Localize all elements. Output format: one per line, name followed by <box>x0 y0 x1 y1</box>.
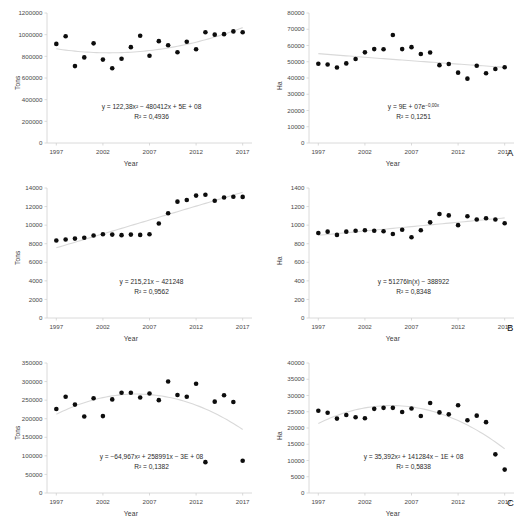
data-point <box>428 220 433 225</box>
data-point <box>119 233 124 238</box>
data-point <box>194 382 199 387</box>
data-point <box>474 413 479 418</box>
data-point <box>474 217 479 222</box>
data-point <box>502 467 507 472</box>
data-point <box>138 33 143 38</box>
data-point <box>110 232 115 237</box>
data-point <box>82 414 87 419</box>
r-squared-label: R² = 0,8348 <box>396 288 431 295</box>
equation-label: y = 122,38x² − 480412x + 5E + 08 <box>102 103 202 111</box>
r-squared-label: R² = 0,9562 <box>134 288 169 295</box>
data-point <box>344 61 349 66</box>
y-tick-label: 600 <box>294 258 305 265</box>
x-axis-title: Year <box>262 510 524 517</box>
x-tick-label: 1997 <box>49 148 63 155</box>
data-point <box>316 61 321 66</box>
data-point <box>184 395 189 400</box>
data-point <box>325 410 330 415</box>
data-point <box>363 416 368 421</box>
equation-label: y = 9E + 07e−0,00x <box>388 103 440 111</box>
x-tick-label: 1997 <box>311 323 325 330</box>
r-squared-label: R² = 0,4936 <box>134 113 169 120</box>
plot-area-b-right: 0200400600800100012001400199720022007201… <box>262 175 524 350</box>
chart-panel-c-left: 0500001000001500002000002500003000003500… <box>0 350 262 525</box>
panel-letter-a: A <box>507 147 513 158</box>
x-tick-label: 2017 <box>236 498 250 505</box>
data-point <box>175 50 180 55</box>
x-axis-title: Year <box>0 160 262 167</box>
y-tick-label: 60000 <box>287 42 305 49</box>
y-tick-label: 40000 <box>287 74 305 81</box>
data-point <box>203 192 208 197</box>
data-point <box>409 45 414 50</box>
data-point <box>353 57 358 62</box>
data-point <box>484 71 489 76</box>
x-tick-label: 2002 <box>358 148 372 155</box>
data-point <box>184 198 189 203</box>
data-point <box>157 221 162 226</box>
data-point <box>400 410 405 415</box>
y-tick-label: 200000 <box>22 118 43 125</box>
x-tick-label: 2007 <box>143 148 157 155</box>
plot-area-c-right: 0500010000150002000025000300003500040000… <box>262 350 524 525</box>
y-tick-label: 35000 <box>287 375 305 382</box>
data-point <box>231 400 236 405</box>
y-tick-label: 150000 <box>22 433 43 440</box>
plot-area-b-left: 0200040006000800010000120001400019972002… <box>0 175 262 350</box>
x-tick-label: 1997 <box>311 148 325 155</box>
data-point <box>54 42 59 47</box>
x-tick-label: 2002 <box>96 148 110 155</box>
y-tick-label: 4000 <box>29 277 43 284</box>
data-point <box>446 412 451 417</box>
y-tick-label: 2000 <box>29 296 43 303</box>
data-point <box>456 223 461 228</box>
x-tick-label: 2007 <box>405 498 419 505</box>
data-point <box>446 213 451 218</box>
data-point <box>372 407 377 412</box>
y-tick-label: 600000 <box>22 74 43 81</box>
data-point <box>409 235 414 240</box>
data-point <box>344 229 349 234</box>
y-tick-label: 14000 <box>25 184 43 191</box>
x-tick-label: 2007 <box>143 498 157 505</box>
r-squared-label: R² = 0,5838 <box>396 463 431 470</box>
panel-letter-c: C <box>507 497 514 508</box>
y-tick-label: 800000 <box>22 53 43 60</box>
data-point <box>119 56 124 61</box>
data-point <box>391 33 396 38</box>
panel-letter-b: B <box>507 322 513 333</box>
y-tick-label: 350000 <box>22 359 43 366</box>
x-tick-label: 2002 <box>358 323 372 330</box>
data-point <box>147 391 152 396</box>
data-point <box>428 401 433 406</box>
y-tick-label: 0 <box>39 314 43 321</box>
y-tick-label: 70000 <box>287 25 305 32</box>
r-squared-label: R² = 0,1251 <box>396 113 431 120</box>
x-tick-label: 2012 <box>451 323 465 330</box>
data-point <box>316 408 321 413</box>
y-tick-label: 80000 <box>287 9 305 16</box>
y-axis-title: Ha <box>276 81 283 90</box>
y-axis-title: Tons <box>14 425 21 440</box>
x-tick-label: 2002 <box>96 498 110 505</box>
y-tick-label: 12000 <box>25 203 43 210</box>
data-point <box>63 395 68 400</box>
x-tick-label: 1997 <box>49 498 63 505</box>
x-tick-label: 2017 <box>236 148 250 155</box>
data-point <box>222 32 227 37</box>
data-point <box>335 416 340 421</box>
y-tick-label: 0 <box>301 139 305 146</box>
data-point <box>212 32 217 37</box>
equation-label: y = 51276ln(x) − 388922 <box>378 278 450 286</box>
data-point <box>101 232 106 237</box>
data-point <box>110 397 115 402</box>
data-point <box>484 420 489 425</box>
data-point <box>353 415 358 420</box>
data-point <box>175 393 180 398</box>
x-axis-title: Year <box>0 335 262 342</box>
y-tick-label: 30000 <box>287 90 305 97</box>
data-point <box>166 43 171 48</box>
data-point <box>129 390 134 395</box>
data-point <box>419 52 424 57</box>
data-point <box>147 232 152 237</box>
